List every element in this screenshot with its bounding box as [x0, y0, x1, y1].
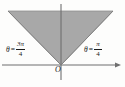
fraction-numerator-right: π — [95, 41, 101, 48]
angle-equation-right: θ = π 4 — [84, 41, 102, 58]
theta-symbol-right: θ — [84, 46, 88, 54]
polar-region-figure: θ = 3π 4 θ = π 4 O — [0, 0, 125, 87]
fraction-left: 3π 4 — [16, 41, 25, 58]
equals-sign-left: = — [11, 46, 15, 54]
fraction-denominator-right: 4 — [95, 51, 101, 58]
fraction-numerator-left: 3π — [16, 41, 25, 48]
fraction-right: π 4 — [94, 41, 102, 58]
angle-label-right: θ = π 4 — [84, 39, 102, 58]
origin-label: O — [55, 66, 61, 74]
fraction-denominator-left: 4 — [18, 51, 24, 58]
x-axis-arrow-icon — [115, 62, 121, 67]
angle-label-left: θ = 3π 4 — [6, 39, 25, 58]
angle-equation-left: θ = 3π 4 — [6, 41, 25, 58]
equals-sign-right: = — [89, 46, 93, 54]
theta-symbol-left: θ — [6, 46, 10, 54]
